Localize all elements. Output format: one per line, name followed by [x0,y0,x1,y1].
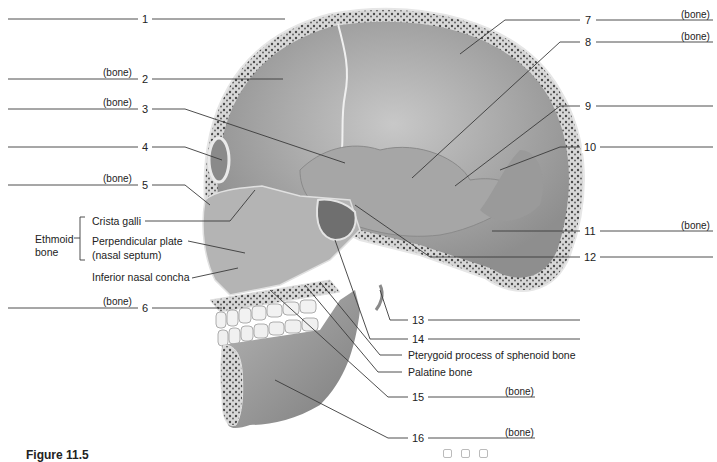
label-number-2: 2 [140,73,150,85]
bone-hint-7: (bone) [681,9,710,20]
label-number-9: 9 [583,100,593,112]
bone-hint-15: (bone) [505,386,534,397]
label-palatine-bone: Palatine bone [408,366,472,378]
label-crista-galli: Crista galli [92,215,141,227]
figure-caption: Figure 11.5 [26,448,89,462]
caption-icon-1 [443,449,452,458]
label-number-6: 6 [140,302,150,314]
label-number-15: 15 [410,391,426,403]
label-number-12: 12 [582,251,598,263]
label-number-3: 3 [140,103,150,115]
label-number-14: 14 [410,333,426,345]
bone-hint-6: (bone) [103,296,132,307]
label-number-4: 4 [140,141,150,153]
bone-hint-16: (bone) [505,427,534,438]
label-inferior-nasal-concha: Inferior nasal concha [92,271,189,283]
bone-hint-11: (bone) [681,220,710,231]
label-number-11: 11 [582,225,597,237]
label-ethmoid-line1: Ethmoid [35,233,74,245]
label-number-13: 13 [410,314,426,326]
bone-hint-5: (bone) [103,173,132,184]
label-number-5: 5 [140,179,150,191]
bone-hint-2: (bone) [103,67,132,78]
label-number-1: 1 [140,13,150,25]
label-pterygoid-process: Pterygoid process of sphenoid bone [408,349,576,361]
bone-hint-8: (bone) [681,31,710,42]
caption-icon-2 [461,449,470,458]
label-number-8: 8 [583,36,593,48]
label-perpendicular-plate: Perpendicular plate [92,235,182,247]
label-nasal-septum: (nasal septum) [92,249,161,261]
label-number-10: 10 [582,141,598,153]
bone-hint-3: (bone) [103,97,132,108]
label-number-16: 16 [410,432,426,444]
label-ethmoid-line2: bone [35,246,58,258]
label-number-7: 7 [583,14,593,26]
caption-icon-3 [479,449,488,458]
